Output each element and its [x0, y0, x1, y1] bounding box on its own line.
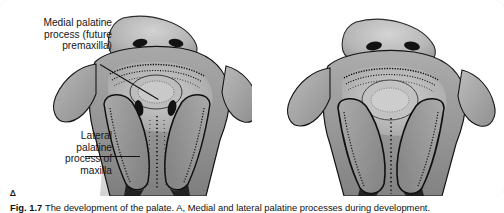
- callout-medial-palatine-process: Medial palatine process (future premaxil…: [8, 17, 112, 52]
- palate-specimen-b-illustration: [252, 0, 504, 196]
- callout-lateral-palatine-process: Lateral palatine process of maxilla: [8, 130, 112, 176]
- callout-lateral-line-4: maxilla: [8, 165, 112, 177]
- callout-medial-line-2: process (future: [8, 29, 112, 41]
- callout-medial-line-1: Medial palatine: [8, 17, 112, 29]
- callout-medial-line-3: premaxilla): [8, 40, 112, 52]
- leader-line-lateral: [85, 156, 140, 157]
- callout-lateral-line-2: palatine: [8, 142, 112, 154]
- figure-container: A: [0, 0, 504, 213]
- figure-caption-label: Fig. 1.7: [10, 203, 42, 213]
- figure-card: A: [0, 0, 504, 196]
- panel-b: B: [252, 0, 504, 196]
- callout-lateral-line-1: Lateral: [8, 130, 112, 142]
- figure-caption: Fig. 1.7 The development of the palate. …: [10, 203, 502, 213]
- figure-caption-text: The development of the palate. A, Medial…: [45, 203, 430, 213]
- panel-letter-a: A: [9, 188, 17, 196]
- callout-lateral-line-3: process of: [8, 153, 112, 165]
